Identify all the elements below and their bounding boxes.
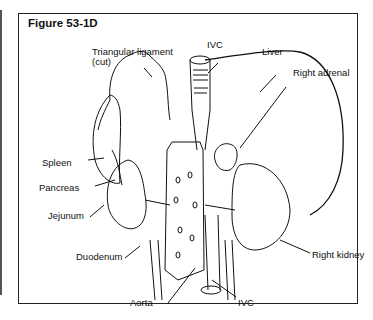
label-jejunum: Jejunum [48,211,84,221]
label-ivc-top: IVC [207,40,223,50]
label-pancreas: Pancreas [39,183,79,193]
label-right-adrenal: Right adrenal [293,68,350,78]
label-ivc-bottom: IVC [238,298,254,308]
label-spleen: Spleen [42,158,72,168]
label-liver: Liver [262,47,283,57]
label-duodenum: Duodenum [76,252,122,262]
label-right-kidney: Right kidney [312,250,364,260]
label-aorta: Aorta [130,298,153,308]
label-triangular-ligament-cut: (cut) [92,57,111,67]
